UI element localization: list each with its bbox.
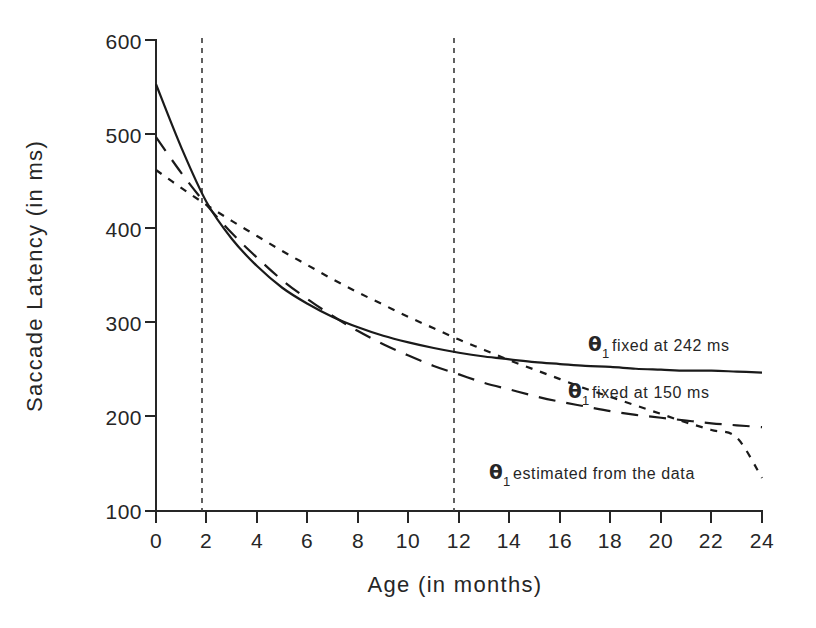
x-tick-label-18: 18 bbox=[598, 529, 622, 552]
figure-container: 600 500 400 300 200 100 bbox=[0, 0, 816, 628]
x-tick-label-10: 10 bbox=[396, 529, 420, 552]
x-tick-label-20: 20 bbox=[649, 529, 673, 552]
annotation-theta1-estimated: θ 1 estimated from the data bbox=[489, 460, 695, 489]
theta-symbol-3: θ bbox=[489, 460, 503, 484]
y-axis bbox=[145, 40, 156, 511]
x-axis bbox=[156, 511, 762, 523]
annotation-label-150: fixed at 150 ms bbox=[592, 384, 710, 401]
x-tick-label-22: 22 bbox=[699, 529, 723, 552]
theta-symbol-2: θ bbox=[568, 379, 582, 403]
x-tick-label-8: 8 bbox=[352, 529, 364, 552]
x-axis-title: Age (in months) bbox=[368, 572, 543, 597]
x-tick-label-24: 24 bbox=[750, 529, 774, 552]
x-tick-labels: 0 2 4 6 8 10 12 14 16 18 20 22 24 bbox=[150, 529, 774, 552]
y-tick-label-200: 200 bbox=[105, 406, 142, 429]
x-tick-label-14: 14 bbox=[497, 529, 521, 552]
x-tick-label-6: 6 bbox=[301, 529, 313, 552]
y-tick-label-100: 100 bbox=[105, 500, 142, 523]
curve-theta1-fixed-242 bbox=[156, 84, 762, 372]
saccade-latency-chart: 600 500 400 300 200 100 bbox=[0, 0, 816, 628]
annotation-label-estimated: estimated from the data bbox=[513, 465, 695, 482]
annotation-theta1-fixed-242: θ 1 fixed at 242 ms bbox=[588, 332, 730, 361]
x-tick-label-12: 12 bbox=[447, 529, 471, 552]
annotation-label-242: fixed at 242 ms bbox=[612, 337, 730, 354]
theta-subscript-3: 1 bbox=[503, 474, 510, 489]
y-tick-label-400: 400 bbox=[105, 218, 142, 241]
y-axis-title: Saccade Latency (in ms) bbox=[22, 140, 47, 412]
x-tick-label-2: 2 bbox=[200, 529, 212, 552]
curve-theta1-estimated bbox=[156, 170, 762, 478]
theta-subscript-2: 1 bbox=[582, 393, 589, 408]
x-tick-label-4: 4 bbox=[251, 529, 263, 552]
y-tick-label-600: 600 bbox=[105, 30, 142, 53]
y-tick-label-300: 300 bbox=[105, 312, 142, 335]
y-tick-labels: 600 500 400 300 200 100 bbox=[105, 30, 142, 523]
y-tick-label-500: 500 bbox=[105, 124, 142, 147]
x-tick-label-0: 0 bbox=[150, 529, 162, 552]
theta-symbol-1: θ bbox=[588, 332, 602, 356]
x-tick-label-16: 16 bbox=[548, 529, 572, 552]
annotation-theta1-fixed-150: θ 1 fixed at 150 ms bbox=[568, 379, 710, 408]
theta-subscript-1: 1 bbox=[602, 346, 609, 361]
